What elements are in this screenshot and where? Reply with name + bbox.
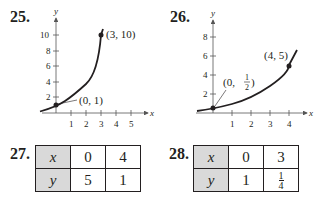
table-cell: y (36, 169, 71, 192)
table-row: x 0 4 (36, 146, 141, 169)
svg-text:2: 2 (203, 89, 208, 99)
table-cell: 4 (106, 146, 141, 169)
svg-text:4: 4 (203, 70, 208, 80)
table-cell: x (194, 146, 229, 169)
fraction-denominator: 4 (279, 180, 284, 190)
svg-text:y: y (210, 8, 215, 18)
graphs: 123 45 246 810 y x (3, 10) (0, 1) 123 4 … (0, 0, 323, 140)
svg-text:1: 1 (69, 119, 74, 129)
table-cell: 5 (71, 169, 106, 192)
graph-25: 123 45 246 810 y x (3, 10) (0, 1) (40, 6, 154, 129)
table-28: x 0 3 y 1 14 (193, 145, 299, 192)
svg-text:): ) (251, 76, 255, 89)
svg-text:2: 2 (84, 119, 89, 129)
svg-text:3: 3 (268, 119, 273, 129)
table-cell: 1 (229, 169, 264, 192)
table-cell: 0 (229, 146, 264, 169)
table-cell: y (194, 169, 229, 192)
label-point-0-1: (0, 1) (79, 94, 103, 107)
table-row: y 5 1 (36, 169, 141, 192)
svg-text:3: 3 (99, 119, 104, 129)
table-row: x 0 3 (194, 146, 299, 169)
problem-number-27: 27. (10, 145, 30, 163)
svg-text:6: 6 (46, 61, 51, 71)
svg-text:4: 4 (46, 77, 51, 87)
svg-text:4: 4 (287, 119, 292, 129)
svg-text:8: 8 (203, 32, 208, 42)
problem-number-28: 28. (169, 145, 189, 163)
table-cell: 3 (264, 146, 299, 169)
svg-text:10: 10 (40, 30, 50, 40)
table-row: y 1 14 (194, 169, 299, 192)
svg-text:x: x (308, 108, 313, 118)
svg-text:y: y (53, 6, 58, 16)
svg-text:1: 1 (230, 119, 235, 129)
svg-text:2: 2 (249, 119, 254, 129)
graph-26: 123 4 246 8 y x (4, 5) (0, 1 2 ) (196, 8, 313, 129)
table-cell-fraction: 14 (264, 169, 299, 192)
svg-text:x: x (149, 108, 154, 118)
svg-text:8: 8 (46, 46, 51, 56)
svg-text:(0,: (0, (223, 76, 235, 89)
svg-text:1: 1 (245, 73, 249, 82)
label-point-3-10: (3, 10) (106, 28, 136, 41)
table-27: x 0 4 y 5 1 (35, 145, 141, 192)
svg-text:2: 2 (46, 92, 51, 102)
svg-text:6: 6 (203, 51, 208, 61)
table-cell: x (36, 146, 71, 169)
fraction-numerator: 1 (279, 171, 284, 180)
svg-text:4: 4 (114, 119, 119, 129)
table-cell: 0 (71, 146, 106, 169)
svg-text:5: 5 (129, 119, 134, 129)
label-point-4-5: (4, 5) (264, 49, 288, 62)
svg-text:2: 2 (245, 83, 249, 92)
table-cell: 1 (106, 169, 141, 192)
